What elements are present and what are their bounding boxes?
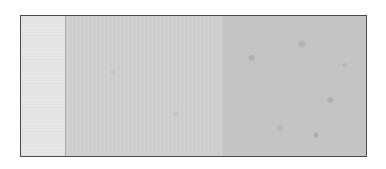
medium-panel xyxy=(65,16,223,156)
image-frame xyxy=(20,15,367,157)
dark-speckled-panel xyxy=(223,16,366,156)
light-panel xyxy=(21,16,65,156)
